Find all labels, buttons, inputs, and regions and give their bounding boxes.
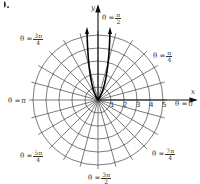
angle-label-0: θ = 0 [175, 101, 193, 108]
tick-label: 1 [110, 101, 114, 109]
grid-ray [98, 100, 165, 118]
angle-label-pi: θ = π [8, 98, 26, 105]
angle-label-7pi-4: θ = 7π4 [152, 148, 175, 161]
tick-label: 2 [123, 101, 127, 109]
grid-ray [38, 100, 98, 135]
y-axis-label: y [91, 4, 95, 12]
angle-label-5pi-4: θ = 5π4 [20, 150, 43, 163]
angle-label-pi-2: θ = π2 [102, 12, 121, 25]
arrowhead-icon [108, 27, 112, 34]
grid-ray [80, 100, 98, 167]
grid-ray [49, 100, 98, 149]
grid-ray [98, 82, 165, 100]
angle-label-3pi-4: θ = 3π4 [20, 33, 43, 46]
grid-ray [31, 100, 98, 118]
angle-label-pi-4: θ = π4 [153, 50, 172, 63]
y-axis-arrow-icon [96, 6, 100, 12]
tick-label: 4 [149, 101, 153, 109]
tick-label: 3 [136, 101, 140, 109]
angle-label-3pi-2: θ = 3π2 [88, 172, 111, 184]
arrowhead-icon [85, 27, 89, 34]
grid-ray [31, 82, 98, 100]
grid-ray [64, 40, 99, 100]
polar-diagram: 9. 1 2 3 4 5 x y θ = 0 θ = π4 θ [0, 0, 200, 184]
grid-ray [98, 51, 147, 100]
grid-ray [98, 100, 116, 167]
grid-ray [64, 100, 99, 160]
x-axis-label: x [191, 88, 195, 96]
tick-label: 5 [162, 101, 166, 109]
